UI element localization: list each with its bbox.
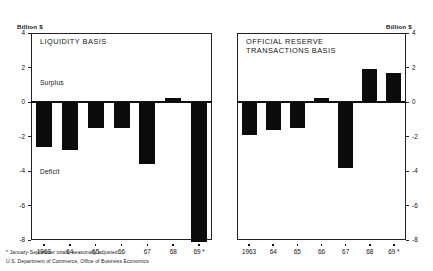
- x-tick-dot: [393, 244, 395, 246]
- panel-title-liquidity-basis: LIQUIDITY BASIS: [40, 37, 107, 46]
- y-tick-mark: [28, 67, 31, 68]
- y-tick-mark: [28, 240, 31, 241]
- y-tick-mark: [406, 67, 409, 68]
- x-tick-dot: [172, 244, 174, 246]
- bar-66: [114, 102, 130, 128]
- bar-68: [165, 98, 181, 102]
- balance-of-payments-chart-figure: Billion $LIQUIDITY BASIS420-2-4-6-819636…: [0, 0, 433, 271]
- x-axis-tick-label: 69 *: [183, 248, 215, 255]
- y-axis-tick-label: -2: [3, 133, 25, 140]
- annotation-surplus: Surplus: [40, 79, 64, 86]
- y-axis-tick-label: -6: [3, 202, 25, 209]
- x-axis-tick-label: 69 *: [378, 248, 410, 255]
- y-tick-mark: [406, 102, 409, 103]
- y-tick-mark: [406, 171, 409, 172]
- y-tick-mark: [28, 33, 31, 34]
- y-axis-tick-label: -4: [412, 167, 433, 174]
- y-axis-tick-label: -8: [3, 236, 25, 243]
- bar-69: [191, 102, 207, 242]
- y-axis-tick-label: 0: [3, 98, 25, 105]
- x-tick-dot: [95, 244, 97, 246]
- bar-64: [62, 102, 78, 150]
- annotation-deficit: Deficit: [40, 168, 60, 175]
- x-tick-dot: [43, 244, 45, 246]
- y-axis-tick-label: -6: [412, 202, 433, 209]
- y-tick-mark: [406, 136, 409, 137]
- x-tick-dot: [369, 244, 371, 246]
- y-axis-tick-label: 0: [412, 98, 433, 105]
- y-tick-mark: [406, 205, 409, 206]
- x-tick-dot: [121, 244, 123, 246]
- bar-65: [88, 102, 104, 128]
- plot-area-official-reserve-basis: [237, 33, 406, 240]
- bar-69: [386, 73, 401, 102]
- y-axis-tick-label: -8: [412, 236, 433, 243]
- bar-66: [314, 98, 329, 102]
- x-tick-dot: [272, 244, 274, 246]
- x-tick-dot: [69, 244, 71, 246]
- plot-area-liquidity-basis: [31, 33, 212, 240]
- y-tick-mark: [406, 240, 409, 241]
- panel-title-official-reserve-basis: OFFICIAL RESERVE TRANSACTIONS BASIS: [246, 37, 336, 55]
- axis-unit-label-right: Billion $: [386, 23, 412, 30]
- y-axis-tick-label: -4: [3, 167, 25, 174]
- bar-1963: [36, 102, 52, 147]
- x-tick-dot: [345, 244, 347, 246]
- bar-68: [362, 69, 377, 102]
- y-axis-tick-label: 4: [3, 29, 25, 36]
- x-tick-dot: [198, 244, 200, 246]
- y-tick-mark: [28, 205, 31, 206]
- footnote-1: * January-September totals, seasonally a…: [6, 249, 119, 255]
- bar-1963: [242, 102, 257, 135]
- bar-67: [338, 102, 353, 168]
- y-tick-mark: [28, 136, 31, 137]
- x-tick-dot: [248, 244, 250, 246]
- bar-65: [290, 102, 305, 128]
- footnote-2: U.S. Department of Commerce, Office of B…: [6, 258, 149, 264]
- bar-67: [139, 102, 155, 164]
- bar-64: [266, 102, 281, 130]
- x-tick-dot: [321, 244, 323, 246]
- x-tick-dot: [147, 244, 149, 246]
- y-tick-mark: [28, 171, 31, 172]
- y-axis-tick-label: 2: [412, 64, 433, 71]
- x-tick-dot: [297, 244, 299, 246]
- y-tick-mark: [406, 33, 409, 34]
- y-axis-tick-label: 4: [412, 29, 433, 36]
- y-axis-tick-label: -2: [412, 133, 433, 140]
- y-axis-tick-label: 2: [3, 64, 25, 71]
